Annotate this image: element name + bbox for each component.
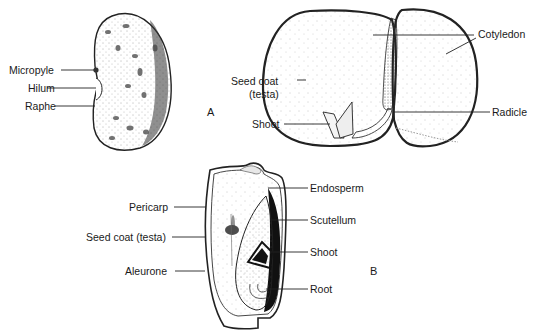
label-radicle: Radicle	[492, 106, 527, 118]
panel-letter-b: B	[370, 265, 377, 277]
label-shoot-b: Shoot	[310, 246, 337, 258]
label-endosperm: Endosperm	[310, 182, 364, 194]
label-seed-coat-testa: Seed coat (testa)	[86, 231, 166, 243]
label-shoot-a: Shoot	[252, 118, 279, 130]
bean-section-drawing	[258, 9, 490, 148]
label-micropyle: Micropyle	[9, 64, 54, 76]
bean-exterior-drawing	[47, 14, 171, 150]
seed-anatomy-drawing	[0, 0, 542, 335]
panel-letter-a: A	[207, 106, 214, 118]
grain-section-drawing	[172, 163, 308, 329]
label-seed-coat-line2: (testa)	[249, 88, 279, 100]
label-hilum: Hilum	[28, 82, 55, 94]
label-pericarp: Pericarp	[129, 201, 168, 213]
label-seed-coat-line1: Seed coat	[231, 75, 278, 87]
label-root: Root	[310, 283, 332, 295]
label-cotyledon: Cotyledon	[478, 28, 525, 40]
label-scutellum: Scutellum	[310, 214, 356, 226]
label-aleurone: Aleurone	[125, 265, 167, 277]
label-raphe: Raphe	[25, 100, 56, 112]
